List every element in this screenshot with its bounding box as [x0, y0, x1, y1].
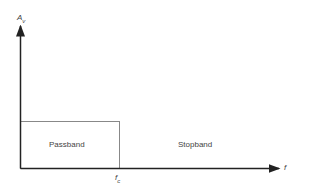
cutoff-frequency-label: fc	[115, 173, 120, 184]
x-axis-label: f	[284, 163, 286, 172]
filter-response-diagram	[0, 0, 309, 187]
stopband-label: Stopband	[178, 140, 212, 149]
passband-label: Passband	[49, 140, 85, 149]
y-axis-label: Av	[17, 13, 25, 24]
